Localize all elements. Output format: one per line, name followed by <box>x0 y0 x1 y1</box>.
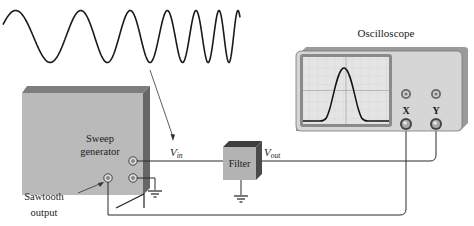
sawtooth-jack[interactable] <box>104 174 112 182</box>
ground-jack[interactable] <box>129 174 137 182</box>
output-jack[interactable] <box>129 157 137 165</box>
y-knob[interactable] <box>431 89 441 99</box>
generator-side <box>143 86 150 195</box>
ground-icon <box>148 191 162 197</box>
y-label: Y <box>432 105 440 116</box>
x-input-jack[interactable] <box>400 118 412 130</box>
vin-pointer <box>150 70 175 141</box>
vin-label: Vin <box>170 146 183 160</box>
x-knob[interactable] <box>401 89 411 99</box>
generator-face <box>22 93 143 195</box>
wires <box>108 128 436 215</box>
svg-text:output: output <box>31 207 58 218</box>
x-label: X <box>402 105 410 116</box>
svg-text:Sawtooth: Sawtooth <box>24 191 64 202</box>
ground-icon <box>234 196 248 202</box>
vout-wire <box>260 128 436 161</box>
generator-label-line1: Sweep <box>86 133 114 144</box>
oscilloscope-title: Oscilloscope <box>358 27 415 39</box>
y-input-jack[interactable] <box>430 118 442 130</box>
generator-top <box>22 86 150 93</box>
filter-box: Filter <box>223 141 262 180</box>
sweep-waveform <box>3 11 240 63</box>
sweep-generator: Sweep generator <box>22 86 150 195</box>
sawtooth-waveform-icon <box>116 194 144 208</box>
oscilloscope: X Y <box>296 47 468 131</box>
filter-label: Filter <box>229 158 251 169</box>
generator-label-line2: generator <box>80 146 120 157</box>
vout-label: Vout <box>264 146 281 160</box>
diagram-canvas: Sweep generator Sawtooth output <box>0 0 474 226</box>
